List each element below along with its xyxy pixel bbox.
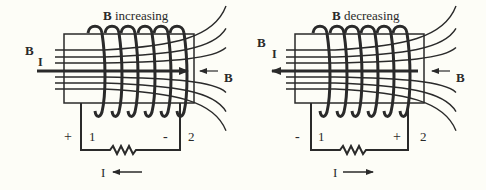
terminal-left-number: 1	[89, 129, 96, 144]
terminal-right-sign: -	[163, 129, 168, 144]
terminal-right-number: 2	[420, 129, 427, 144]
right-field-label: B	[456, 70, 465, 85]
panel-title: B increasing	[103, 8, 169, 23]
diagram-canvas: B increasing B I B + 1 - 2 I B decreasin…	[0, 0, 486, 190]
panel-b-decreasing: B decreasing B I B - 1 + 2 I	[257, 6, 465, 180]
panel-b-increasing: B increasing B I B + 1 - 2 I	[25, 6, 233, 180]
terminal-left-sign: +	[64, 129, 72, 144]
current-label-left: I	[272, 47, 277, 61]
panel-title: B decreasing	[332, 8, 400, 23]
panel-geometry	[37, 6, 226, 172]
induced-current-label: I	[101, 165, 105, 180]
left-field-label: B	[257, 35, 266, 50]
induction-diagram: B increasing B I B + 1 - 2 I B decreasin…	[0, 0, 486, 190]
terminal-left-number: 1	[318, 129, 325, 144]
terminal-left-sign: -	[295, 129, 300, 144]
left-field-label: B	[25, 43, 34, 58]
core-box	[64, 34, 194, 103]
right-field-label: B	[224, 70, 233, 85]
current-label-left: I	[38, 55, 43, 69]
induced-current-label: I	[333, 165, 337, 180]
panel-geometry	[272, 6, 456, 172]
terminal-right-number: 2	[188, 129, 195, 144]
terminal-right-sign: +	[393, 129, 401, 144]
